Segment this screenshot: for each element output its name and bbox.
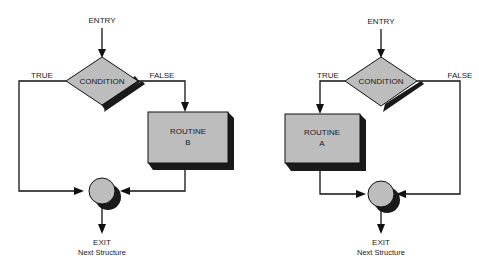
true-connector bbox=[320, 81, 345, 108]
routine-b-arrow-icon bbox=[120, 187, 130, 195]
false-label: FALSE bbox=[150, 71, 175, 80]
exit-label-line2: Next Structure bbox=[78, 248, 126, 257]
condition-label: CONDITION bbox=[359, 77, 404, 86]
exit-label-line2: Next Structure bbox=[357, 248, 405, 257]
routine-b-label-line1: ROUTINE bbox=[170, 127, 206, 136]
routine-b-label-line2: B bbox=[185, 138, 190, 147]
entry-label: ENTRY bbox=[89, 16, 117, 25]
routine-a-label-line2: A bbox=[319, 139, 325, 148]
false-connector bbox=[138, 81, 185, 106]
true-label: TRUE bbox=[31, 71, 53, 80]
false-label: FALSE bbox=[448, 71, 473, 80]
entry-label: ENTRY bbox=[368, 17, 396, 26]
false-connector bbox=[404, 81, 460, 194]
false-arrow-icon bbox=[181, 102, 189, 112]
exit-label-line1: EXIT bbox=[372, 238, 390, 247]
exit-arrow-icon bbox=[377, 224, 385, 234]
right-structure: ENTRY CONDITION TRUE FALSE ROUTINE A EXI… bbox=[285, 17, 472, 257]
junction-circle bbox=[368, 181, 394, 207]
routine-a-label-line1: ROUTINE bbox=[304, 128, 340, 137]
routine-b-connector bbox=[128, 170, 185, 191]
true-arrow-icon bbox=[74, 187, 84, 195]
left-structure: ENTRY CONDITION TRUE FALSE ROUTINE B EXI… bbox=[19, 16, 234, 257]
routine-a-arrow-icon bbox=[356, 190, 366, 198]
exit-arrow-icon bbox=[98, 224, 106, 234]
junction-circle bbox=[89, 178, 115, 204]
true-connector bbox=[19, 81, 78, 191]
exit-label-line1: EXIT bbox=[93, 238, 111, 247]
true-arrow-icon bbox=[316, 104, 324, 114]
true-label: TRUE bbox=[317, 71, 339, 80]
condition-label: CONDITION bbox=[80, 77, 125, 86]
routine-a-connector bbox=[320, 171, 360, 194]
flowchart-canvas: ENTRY CONDITION TRUE FALSE ROUTINE B EXI… bbox=[0, 0, 479, 267]
